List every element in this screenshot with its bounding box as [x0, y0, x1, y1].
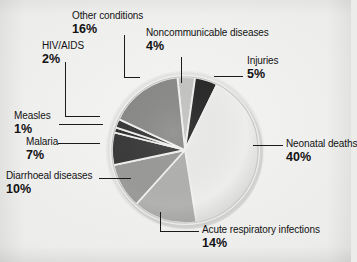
label-diarrhoeal-name: Diarrhoeal diseases	[6, 170, 92, 181]
label-malaria: Malaria 7%	[26, 136, 58, 162]
label-hiv-aids: HIV/AIDS 2%	[42, 40, 84, 66]
label-malaria-name: Malaria	[26, 136, 58, 147]
leader-hiv-aids	[65, 62, 100, 116]
label-other-conditions-name: Other conditions	[72, 10, 143, 21]
label-neonatal-pct: 40%	[286, 150, 357, 164]
label-noncommunicable-name: Noncommunicable diseases	[146, 27, 269, 38]
leader-other-conditions	[124, 35, 140, 77]
label-diarrhoeal-pct: 10%	[6, 182, 92, 196]
label-measles-name: Measles	[14, 110, 51, 121]
label-diarrhoeal: Diarrhoeal diseases 10%	[6, 170, 92, 196]
label-acute-respiratory-pct: 14%	[202, 236, 320, 250]
label-neonatal: Neonatal deaths 40%	[286, 138, 357, 164]
label-injuries: Injuries 5%	[247, 55, 278, 81]
label-neonatal-name: Neonatal deaths	[286, 138, 357, 149]
label-hiv-aids-name: HIV/AIDS	[42, 40, 84, 51]
label-other-conditions-pct: 16%	[72, 22, 143, 36]
label-measles-pct: 1%	[14, 122, 51, 136]
label-noncommunicable: Noncommunicable diseases 4%	[146, 27, 269, 53]
label-acute-respiratory: Acute respiratory infections 14%	[202, 224, 320, 250]
label-measles: Measles 1%	[14, 110, 51, 136]
label-hiv-aids-pct: 2%	[42, 52, 84, 66]
label-noncommunicable-pct: 4%	[146, 39, 269, 53]
label-malaria-pct: 7%	[26, 148, 58, 162]
label-injuries-pct: 5%	[247, 67, 278, 81]
label-acute-respiratory-name: Acute respiratory infections	[202, 224, 320, 235]
label-injuries-name: Injuries	[247, 55, 278, 66]
pie-disk-shading	[112, 77, 258, 223]
label-other-conditions: Other conditions 16%	[72, 10, 143, 36]
